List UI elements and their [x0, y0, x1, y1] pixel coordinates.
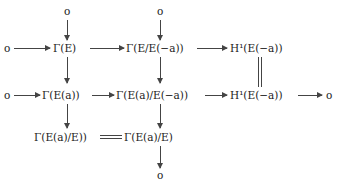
- arrow-r3-bottom: [160, 146, 161, 168]
- node-r2-zero-right: o: [326, 89, 332, 101]
- node-r1-H1: H¹(E(−a)): [230, 42, 282, 54]
- node-r1-gamma-quot: Γ(E/E(−a)): [126, 42, 184, 54]
- node-r1-zero: o: [4, 42, 10, 54]
- node-r2-gamma-Ea: Γ(E(a)): [42, 89, 80, 101]
- arrow-top1-down: [67, 20, 68, 40]
- arrow-r2-a: [14, 95, 40, 96]
- node-r2-H1: H¹(E(−a)): [230, 89, 282, 101]
- arrow-r1-c: [197, 48, 227, 49]
- node-top-zero-2: o: [157, 5, 163, 17]
- arrow-r2-b: [92, 95, 114, 96]
- node-r1-gamma-E: Γ(E): [53, 42, 76, 54]
- arrow-r1-r2-mid: [160, 57, 161, 83]
- equals-r3: [100, 135, 122, 139]
- arrow-r2-d: [298, 95, 322, 96]
- arrow-r2-r3-mid: [160, 104, 161, 128]
- node-r2-zero-left: o: [4, 89, 10, 101]
- equals-r1-r2-right: [258, 57, 262, 87]
- node-bottom-zero: o: [157, 169, 163, 181]
- arrow-r2-c: [205, 95, 227, 96]
- node-r3-gamma-right: Γ(E(a)/E): [124, 131, 173, 143]
- arrow-r1-r2-left: [67, 57, 68, 83]
- node-r3-gamma-left: Γ(E(a)/E)): [34, 131, 87, 143]
- arrow-r1-a: [14, 48, 50, 49]
- arrow-top2-down: [160, 20, 161, 40]
- arrow-r1-b: [90, 48, 124, 49]
- node-top-zero-1: o: [64, 5, 70, 17]
- node-r2-gamma-quot: Γ(E(a)/E(−a)): [116, 89, 188, 101]
- arrow-r2-r3-left: [67, 104, 68, 128]
